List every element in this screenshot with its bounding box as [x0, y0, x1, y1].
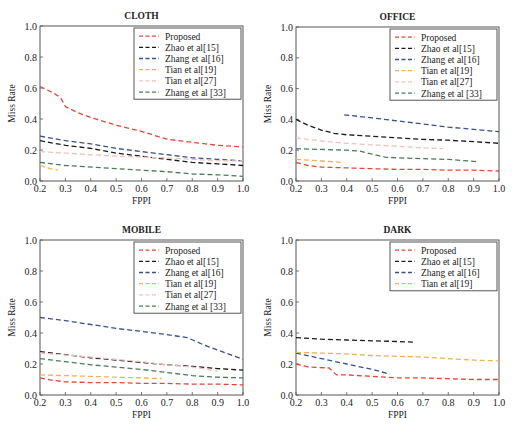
series-line-zhang-et-al-16	[40, 136, 243, 161]
y-tick-label: 0.6	[25, 83, 38, 94]
x-axis-label: FPPI	[388, 410, 407, 420]
legend-label: Tian et al[27]	[165, 76, 216, 86]
x-tick-label: 1.0	[237, 183, 250, 194]
x-tick-label: 0.9	[467, 397, 480, 408]
x-tick-label: 0.3	[59, 397, 72, 408]
x-tick-label: 0.9	[211, 397, 224, 408]
chart-mobile: MOBILE0.20.30.40.50.60.70.80.91.00.00.20…	[7, 225, 249, 420]
x-tick-label: 0.3	[315, 183, 328, 194]
y-tick-label: 1.0	[281, 22, 294, 33]
y-axis-label: Miss Rate	[7, 298, 17, 336]
legend-label: Zhang et al[16]	[165, 54, 224, 64]
x-tick-label: 0.9	[211, 183, 224, 194]
series-line-proposed	[40, 378, 243, 385]
y-tick-label: 0.2	[281, 145, 294, 156]
series-line-zhang-et-al-16	[344, 115, 499, 132]
legend: ProposedZhao et al[15]Zhang et al[16]Tia…	[134, 28, 241, 99]
y-tick-label: 0.8	[281, 52, 294, 63]
legend-label: Zhang et al[16]	[421, 55, 480, 65]
x-tick-label: 0.3	[59, 183, 72, 194]
series-line-tian-et-al-19	[40, 375, 162, 379]
legend-label: Proposed	[421, 246, 457, 256]
y-tick-label: 0.4	[25, 114, 38, 125]
series-line-proposed	[296, 163, 499, 172]
chart-title: OFFICE	[380, 12, 416, 22]
y-tick-label: 1.0	[25, 235, 38, 246]
x-tick-label: 1.0	[237, 397, 250, 408]
legend-label: Tian et al[19]	[165, 279, 216, 289]
y-tick-label: 0.0	[281, 390, 294, 401]
y-tick-label: 0.4	[281, 114, 294, 125]
y-tick-label: 1.0	[25, 21, 38, 32]
series-line-zhao-et-al-15	[296, 119, 499, 143]
legend-label: Proposed	[421, 33, 457, 43]
x-tick-label: 0.6	[391, 183, 404, 194]
series-line-zhang-et-al-33	[40, 162, 243, 176]
chart-cloth: CLOTH0.20.30.40.50.60.70.80.91.00.00.20.…	[7, 11, 249, 206]
y-tick-label: 0.6	[281, 83, 294, 94]
y-tick-label: 0.2	[25, 359, 38, 370]
x-tick-label: 0.7	[417, 183, 430, 194]
legend-label: Zhang et al [33]	[421, 89, 482, 99]
y-tick-label: 1.0	[281, 235, 294, 246]
y-tick-label: 0.0	[281, 176, 294, 187]
legend-label: Proposed	[165, 32, 201, 42]
series-line-tian-et-al-27	[296, 138, 443, 149]
legend: ProposedZhao et al[15]Zhang et al[16]Tia…	[134, 242, 241, 313]
legend-label: Tian et al[19]	[421, 66, 472, 76]
y-tick-label: 0.0	[25, 390, 38, 401]
legend-label: Zhao et al[15]	[165, 257, 219, 267]
legend-label: Tian et al[27]	[421, 77, 472, 87]
chart-title: CLOTH	[124, 11, 159, 21]
series-line-tian-et-al-19	[296, 352, 499, 361]
x-tick-label: 0.8	[186, 183, 199, 194]
y-tick-label: 0.8	[25, 52, 38, 63]
series-line-tian-et-al-19	[296, 159, 344, 162]
series-line-zhao-et-al-15	[40, 352, 243, 371]
x-tick-label: 0.6	[391, 397, 404, 408]
x-tick-label: 0.5	[110, 397, 123, 408]
x-tick-label: 0.4	[341, 183, 354, 194]
legend-label: Zhang et al [33]	[165, 88, 226, 98]
y-tick-label: 0.2	[25, 145, 38, 156]
y-axis-label: Miss Rate	[263, 85, 273, 123]
legend-label: Proposed	[165, 246, 201, 256]
y-tick-label: 0.6	[25, 297, 38, 308]
series-line-tian-et-al-19	[40, 166, 58, 171]
x-tick-label: 0.5	[366, 183, 379, 194]
series-line-zhang-et-al-16	[296, 353, 390, 374]
x-tick-label: 0.9	[467, 183, 480, 194]
legend-label: Zhang et al[16]	[165, 268, 224, 278]
series-line-zhao-et-al-15	[296, 338, 415, 343]
y-axis-label: Miss Rate	[263, 298, 273, 336]
y-tick-label: 0.8	[281, 266, 294, 277]
chart-title: DARK	[384, 225, 413, 235]
legend: ProposedZhao et al[15]Zhang et al[16]Tia…	[390, 242, 497, 291]
legend-label: Zhang et al[16]	[421, 268, 480, 278]
y-axis-label: Miss Rate	[7, 84, 17, 122]
x-tick-label: 0.5	[366, 397, 379, 408]
x-tick-label: 0.5	[110, 183, 123, 194]
y-tick-label: 0.4	[281, 328, 294, 339]
series-line-zhang-et-al-33	[296, 149, 479, 162]
series-line-zhang-et-al-16	[40, 318, 243, 360]
chart-title: MOBILE	[122, 225, 161, 235]
x-tick-label: 0.8	[442, 183, 455, 194]
x-tick-label: 1.0	[493, 183, 506, 194]
figure: CLOTH0.20.30.40.50.60.70.80.91.00.00.20.…	[0, 0, 513, 434]
x-tick-label: 0.6	[135, 397, 148, 408]
chart-dark: DARK0.20.30.40.50.60.70.80.91.00.00.20.4…	[263, 225, 505, 420]
x-tick-label: 0.8	[186, 397, 199, 408]
series-line-proposed	[296, 364, 499, 380]
legend-label: Zhang et al [33]	[165, 302, 226, 312]
y-tick-label: 0.2	[281, 359, 294, 370]
x-tick-label: 0.3	[315, 397, 328, 408]
x-tick-label: 0.7	[417, 397, 430, 408]
x-tick-label: 0.7	[161, 397, 174, 408]
x-tick-label: 1.0	[493, 397, 506, 408]
y-tick-label: 0.6	[281, 297, 294, 308]
x-axis-label: FPPI	[132, 410, 151, 420]
y-tick-label: 0.8	[25, 266, 38, 277]
x-tick-label: 0.7	[161, 183, 174, 194]
legend-label: Zhao et al[15]	[421, 44, 475, 54]
